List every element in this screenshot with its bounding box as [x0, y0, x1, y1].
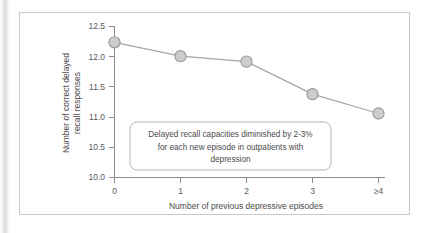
- x-tick-label: ≥4: [374, 186, 384, 196]
- y-tick-label: 10.0: [88, 172, 105, 182]
- x-tick-label: 1: [178, 186, 183, 196]
- annotation-line-2: for each new episode in outpatients with: [158, 143, 304, 152]
- y-axis-ticks: [109, 27, 115, 178]
- y-axis-tick-labels: 10.0 10.5 11.0 11.5 12.0 12.5: [88, 21, 105, 182]
- data-point[interactable]: [241, 56, 252, 67]
- page-edge-strip: [0, 0, 9, 233]
- x-tick-label: 2: [244, 186, 249, 196]
- y-axis-title-line1: Number of correct delayed: [61, 53, 71, 153]
- annotation-line-3: depression: [210, 155, 251, 164]
- y-axis-title: Number of correct delayed recall respons…: [61, 53, 82, 153]
- y-tick-label: 12.5: [88, 21, 105, 31]
- y-tick-label: 12.0: [88, 52, 105, 62]
- figure-frame: 10.0 10.5 11.0 11.5 12.0 12.5: [19, 12, 410, 215]
- y-tick-label: 10.5: [88, 142, 105, 152]
- series-markers: [109, 37, 384, 119]
- data-point[interactable]: [175, 51, 186, 62]
- page-root: 10.0 10.5 11.0 11.5 12.0 12.5: [0, 0, 429, 233]
- data-point[interactable]: [373, 108, 384, 119]
- plot-area: 10.0 10.5 11.0 11.5 12.0 12.5: [20, 13, 411, 216]
- data-point[interactable]: [307, 89, 318, 100]
- x-tick-label: 0: [112, 186, 117, 196]
- line-chart: 10.0 10.5 11.0 11.5 12.0 12.5: [20, 13, 411, 216]
- data-point[interactable]: [109, 37, 120, 48]
- x-axis-tick-labels: 0 1 2 3 ≥4: [112, 186, 383, 196]
- x-tick-label: 3: [310, 186, 315, 196]
- x-axis-title: Number of previous depressive episodes: [169, 201, 323, 211]
- y-tick-label: 11.5: [89, 82, 105, 92]
- annotation-callout: Delayed recall capacities diminished by …: [130, 122, 331, 170]
- series-line: [115, 42, 379, 113]
- y-tick-label: 11.0: [89, 112, 105, 122]
- x-axis-ticks: [115, 178, 379, 184]
- annotation-line-1: Delayed recall capacities diminished by …: [148, 130, 312, 139]
- y-axis-title-line2: recall responses: [72, 72, 82, 134]
